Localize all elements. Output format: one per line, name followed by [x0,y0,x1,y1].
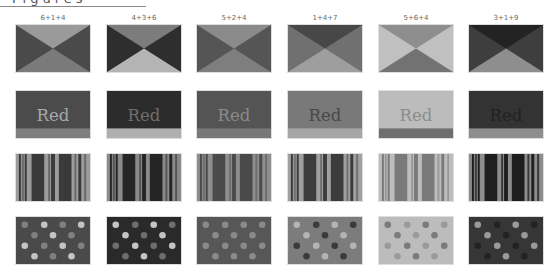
column-label: 6+1+4 [15,14,91,22]
stripe-tile [196,153,272,202]
word-tile: Red [468,90,544,139]
word-tile: Red [196,90,272,139]
stripe-tile [378,153,454,202]
dot-tile [196,216,272,265]
word-label: Red [490,106,523,125]
hourglass-tile [106,24,182,73]
dot-tile [287,216,363,265]
dot-tile [15,216,91,265]
header-divider [0,6,146,7]
hourglass-tile [378,24,454,73]
word-tile: Red [106,90,182,139]
dot-tile [378,216,454,265]
hourglass-tile [15,24,91,73]
column-label: 4+3+6 [106,14,182,22]
word-label: Red [128,106,161,125]
column-label: 3+1+9 [468,14,544,22]
stripe-tile [15,153,91,202]
column-label: 5+6+4 [378,14,454,22]
word-tile: Red [15,90,91,139]
word-tile: Red [378,90,454,139]
hourglass-tile [287,24,363,73]
dot-tile [468,216,544,265]
hourglass-tile [468,24,544,73]
word-tile: Red [287,90,363,139]
column-label: 1+4+7 [287,14,363,22]
word-label: Red [309,106,342,125]
word-label: Red [37,106,70,125]
dot-tile [106,216,182,265]
hourglass-tile [196,24,272,73]
word-label: Red [400,106,433,125]
stripe-tile [106,153,182,202]
column-label: 5+2+4 [196,14,272,22]
stripe-tile [287,153,363,202]
stripe-tile [468,153,544,202]
word-label: Red [218,106,251,125]
